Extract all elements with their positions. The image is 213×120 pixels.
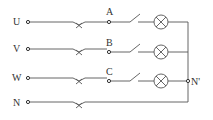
label-N: N (13, 97, 20, 108)
label-B: B (106, 37, 113, 48)
cross-mark-icon (76, 103, 82, 108)
node-C (107, 79, 110, 82)
line-W: W C N' (12, 66, 200, 88)
node-B (107, 50, 110, 53)
label-W: W (12, 72, 22, 83)
neutral-point (186, 79, 189, 82)
terminal-W (26, 76, 29, 79)
label-U: U (13, 16, 21, 27)
cross-mark-icon (76, 50, 82, 55)
label-C: C (106, 66, 113, 77)
circuit-diagram: U A V B W C (0, 0, 213, 120)
lamp-icon (154, 45, 168, 59)
node-A (107, 20, 110, 23)
terminal-N (26, 100, 29, 103)
label-neutral-point: N' (191, 76, 200, 87)
wire-W (30, 78, 107, 81)
lamp-icon (154, 15, 168, 29)
label-A: A (106, 6, 114, 17)
cross-mark-icon (76, 79, 82, 84)
terminal-U (26, 20, 29, 23)
wire-U (30, 22, 107, 25)
wire-N (30, 102, 188, 105)
line-N: N (13, 97, 188, 108)
line-V: V B (13, 37, 188, 59)
wire-V (30, 49, 107, 52)
switch-A (111, 14, 140, 22)
terminal-V (26, 47, 29, 50)
lamp-icon (154, 74, 168, 88)
cross-mark-icon (76, 23, 82, 28)
switch-C (111, 73, 140, 81)
switch-B (111, 44, 140, 52)
label-V: V (13, 43, 21, 54)
